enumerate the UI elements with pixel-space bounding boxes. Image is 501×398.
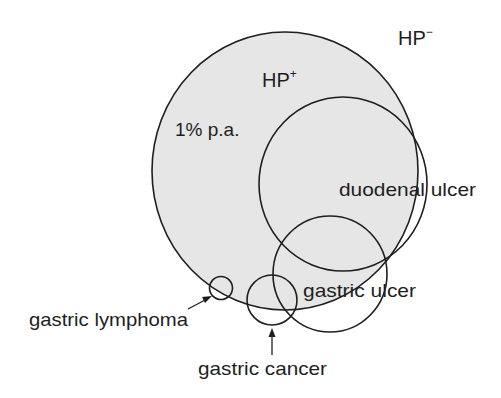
gastric-ulcer-label: gastric ulcer xyxy=(303,280,417,301)
duodenal-ulcer-label: duodenal ulcer xyxy=(339,179,477,200)
cancer-arrow xyxy=(269,328,276,355)
hp-negative-sup: − xyxy=(426,25,433,39)
lymphoma-arrow xyxy=(188,296,212,309)
rate-label: 1% p.a. xyxy=(175,119,239,140)
gastric-cancer-label: gastric cancer xyxy=(198,358,328,379)
hp-positive-sup: + xyxy=(290,67,297,81)
gastric-lymphoma-label: gastric lymphoma xyxy=(29,309,188,330)
venn-diagram: HP− HP+ 1% p.a. duodenal ulcer gastric u… xyxy=(0,0,501,398)
hp-negative-label: HP− xyxy=(398,25,433,49)
